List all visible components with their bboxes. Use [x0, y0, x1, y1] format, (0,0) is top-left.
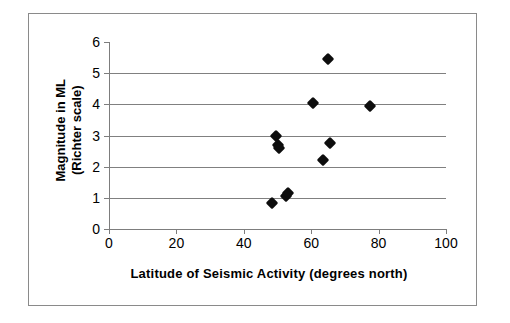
x-axis-tick: [446, 229, 447, 234]
y-axis-tick: [104, 42, 109, 43]
y-axis-title-line1: Magnitude in ML: [53, 45, 69, 215]
x-axis-tick-label: 80: [371, 236, 387, 250]
x-axis-tick-label: 0: [105, 236, 113, 250]
y-axis-tick: [104, 167, 109, 168]
y-axis-tick-label: 6: [92, 35, 100, 49]
y-axis-tick-label: 3: [92, 129, 100, 143]
data-point: [317, 154, 330, 167]
data-point: [323, 137, 336, 150]
y-axis-tick: [104, 136, 109, 137]
y-axis-tick: [104, 198, 109, 199]
gridline: [109, 167, 446, 168]
y-axis-tick-label: 4: [92, 97, 100, 111]
x-axis-line: [109, 229, 447, 230]
data-point: [307, 96, 320, 109]
plot-area: 0123456 020406080100: [109, 42, 446, 229]
chart-frame: 0123456 020406080100 Latitude of Seismic…: [28, 13, 477, 306]
y-axis-tick: [104, 104, 109, 105]
y-axis-tick: [104, 73, 109, 74]
x-axis-tick: [109, 229, 110, 234]
x-axis-tick-label: 60: [303, 236, 319, 250]
x-axis-tick-label: 20: [169, 236, 185, 250]
gridline: [109, 73, 446, 74]
y-axis-tick-label: 0: [92, 222, 100, 236]
x-axis-tick: [379, 229, 380, 234]
y-axis-title: Magnitude in ML (Richter scale): [53, 45, 86, 215]
x-axis-tick-label: 100: [434, 236, 457, 250]
x-axis-tick: [176, 229, 177, 234]
gridline: [109, 198, 446, 199]
data-point: [322, 53, 335, 66]
x-axis-tick: [244, 229, 245, 234]
gridline: [109, 104, 446, 105]
x-axis-tick-label: 40: [236, 236, 252, 250]
x-axis-tick: [311, 229, 312, 234]
y-axis-title-line2: (Richter scale): [69, 45, 85, 215]
data-point: [364, 100, 377, 113]
y-axis-tick-label: 5: [92, 66, 100, 80]
y-axis-tick-label: 1: [92, 191, 100, 205]
y-axis-tick-label: 2: [92, 160, 100, 174]
x-axis-title: Latitude of Seismic Activity (degrees no…: [69, 266, 469, 281]
